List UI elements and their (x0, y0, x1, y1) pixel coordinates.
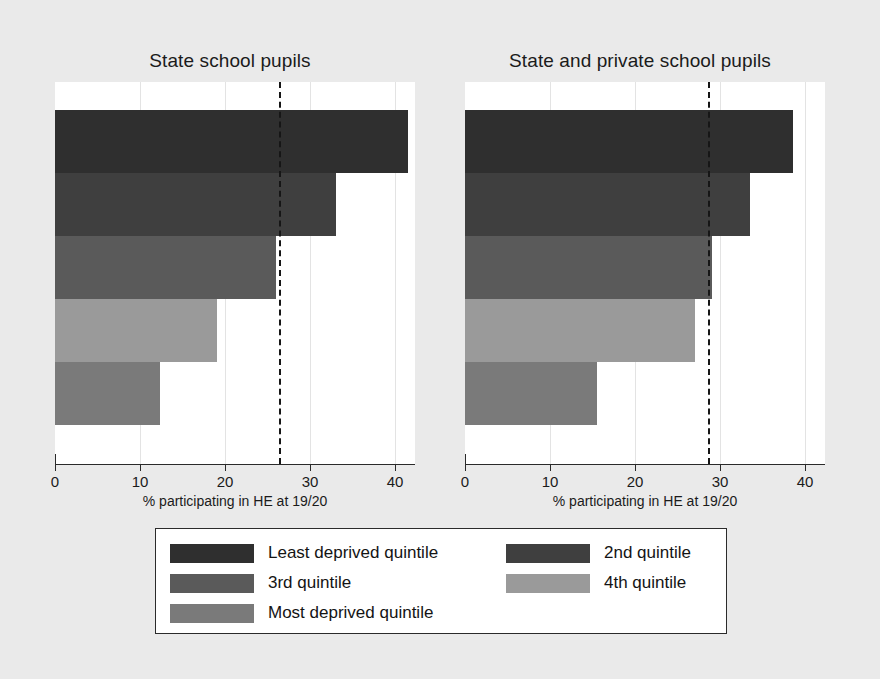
bar-series-left (55, 110, 415, 425)
chart-panel-state-and-private-school: State and private school pupils 0 10 20 … (430, 50, 850, 470)
bar-series-right (465, 110, 825, 425)
x-axis-label-left: % participating in HE at 19/20 (55, 493, 415, 509)
legend-item[interactable]: 4th quintile (506, 569, 716, 597)
bar (465, 110, 793, 173)
bar (465, 173, 750, 236)
legend-swatch (170, 574, 254, 593)
legend-swatch (170, 544, 254, 563)
legend-column-2: 2nd quintile4th quintile (506, 539, 716, 599)
x-tick-label: 10 (132, 473, 149, 490)
legend-label: Most deprived quintile (268, 603, 433, 623)
legend-label: 4th quintile (604, 573, 686, 593)
x-tick (550, 464, 551, 471)
bar-row (55, 236, 415, 299)
reference-line-left (279, 82, 281, 464)
legend-item[interactable]: Least deprived quintile (170, 539, 500, 567)
legend-column-1: Least deprived quintile3rd quintileMost … (170, 539, 500, 629)
bar-row (55, 299, 415, 362)
bar (465, 299, 695, 362)
bar-row (55, 173, 415, 236)
bar (55, 236, 276, 299)
x-tick (465, 464, 466, 471)
bar-row (465, 299, 825, 362)
reference-line-right (708, 82, 710, 464)
bar-row (465, 110, 825, 173)
bar (465, 362, 597, 425)
x-axis-left (55, 464, 415, 465)
x-axis-label-right: % participating in HE at 19/20 (465, 493, 825, 509)
bar-row (465, 173, 825, 236)
bar (55, 110, 408, 173)
legend-label: Least deprived quintile (268, 543, 438, 563)
legend-swatch (170, 604, 254, 623)
x-tick (395, 464, 396, 471)
x-tick-label: 20 (217, 473, 234, 490)
panel-title-right: State and private school pupils (430, 50, 850, 72)
bar-row (55, 110, 415, 173)
x-tick (140, 464, 141, 471)
legend-swatch (506, 574, 590, 593)
chart-legend: Least deprived quintile3rd quintileMost … (155, 528, 727, 634)
x-tick-label: 20 (627, 473, 644, 490)
panel-title-left: State school pupils (20, 50, 440, 72)
x-tick-label: 40 (797, 473, 814, 490)
bar (55, 299, 217, 362)
x-tick (225, 464, 226, 471)
x-tick (635, 464, 636, 471)
x-tick (55, 464, 56, 471)
bar (55, 173, 336, 236)
bar-row (465, 362, 825, 425)
chart-panel-state-school: State school pupils 0 10 20 30 40 % part… (20, 50, 440, 470)
plot-area-right (465, 82, 825, 464)
legend-label: 2nd quintile (604, 543, 691, 563)
legend-item[interactable]: 3rd quintile (170, 569, 500, 597)
x-tick-label: 30 (302, 473, 319, 490)
x-tick-label: 10 (542, 473, 559, 490)
x-tick-label: 0 (51, 473, 59, 490)
plot-area-left (55, 82, 415, 464)
x-tick-label: 0 (461, 473, 469, 490)
legend-item[interactable]: Most deprived quintile (170, 599, 500, 627)
legend-swatch (506, 544, 590, 563)
figure-canvas: State school pupils 0 10 20 30 40 % part… (0, 0, 880, 679)
bar-row (55, 362, 415, 425)
x-axis-right (465, 464, 825, 465)
x-tick (720, 464, 721, 471)
legend-item[interactable]: 2nd quintile (506, 539, 716, 567)
x-tick-label: 30 (712, 473, 729, 490)
x-tick (805, 464, 806, 471)
x-tick (310, 464, 311, 471)
x-tick-label: 40 (387, 473, 404, 490)
bar-row (465, 236, 825, 299)
legend-label: 3rd quintile (268, 573, 351, 593)
bar (55, 362, 160, 425)
bar (465, 236, 712, 299)
